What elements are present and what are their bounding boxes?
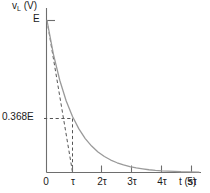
- x-tick-label-2tau: 2τ: [89, 177, 115, 187]
- y-tick-label-0368E: 0.368E: [2, 112, 34, 122]
- exponential-decay-curve: [47, 21, 199, 173]
- x-tick-label-3tau: 3τ: [119, 177, 145, 187]
- y-axis-title-unit: (V): [21, 0, 37, 11]
- chart-canvas: [0, 0, 210, 193]
- x-tick-label-0: 0: [33, 177, 59, 187]
- x-tick-label-tau: τ: [60, 177, 86, 187]
- y-axis-title: vL (V): [12, 1, 37, 12]
- y-tick-label-E: E: [33, 14, 40, 24]
- x-axis-title: t (s): [179, 177, 196, 187]
- chart-container: vL (V) E 0.368E 0 τ 2τ 3τ 4τ 5τ t (s): [0, 0, 210, 193]
- x-tick-label-4tau: 4τ: [149, 177, 175, 187]
